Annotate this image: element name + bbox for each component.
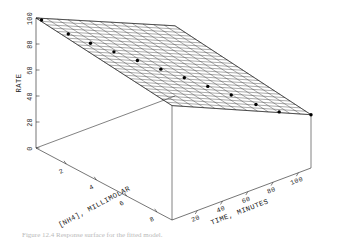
svg-text:6: 6 [118,200,125,208]
svg-text:40: 40 [27,92,34,101]
surface-mesh [36,18,311,115]
axis-ticks [36,18,298,214]
axis-text: 020406080100RATE2468[NH4], MILLIMOLAR204… [15,12,304,229]
svg-text:100: 100 [289,176,304,187]
svg-text:8: 8 [149,216,156,224]
svg-text:80: 80 [266,186,277,196]
svg-text:2: 2 [58,168,65,176]
svg-text:RATE: RATE [15,74,23,93]
svg-text:60: 60 [27,66,34,75]
figure-container: 020406080100RATE2468[NH4], MILLIMOLAR204… [0,0,342,244]
svg-text:80: 80 [27,40,34,49]
svg-text:20: 20 [27,118,34,127]
svg-text:0: 0 [27,146,34,150]
svg-text:20: 20 [190,214,201,224]
svg-text:4: 4 [88,184,95,192]
surface-plot: 020406080100RATE2468[NH4], MILLIMOLAR204… [0,0,342,244]
svg-text:100: 100 [27,12,34,25]
figure-caption: Figure 12.4 Response surface for the fit… [22,231,322,242]
